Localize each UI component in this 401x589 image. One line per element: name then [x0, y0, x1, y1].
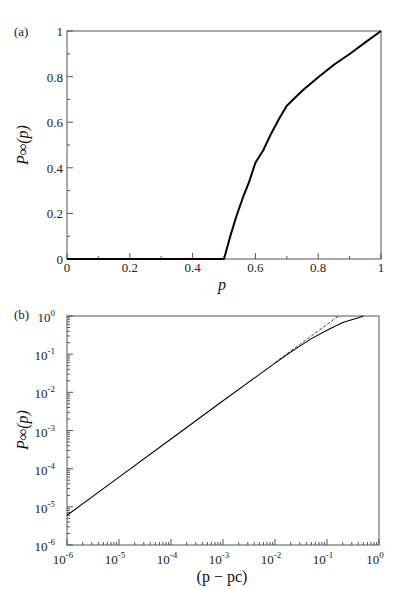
- chart-figure: (a) 00.20.40.60.8100.20.40.60.81 p P∞(p)…: [0, 0, 401, 589]
- series-line-a: [67, 31, 381, 259]
- x-tick-label-a: 0.8: [310, 260, 326, 275]
- x-tick-label-b: 10-6: [53, 550, 74, 567]
- x-tick-label-b: 100: [366, 550, 384, 567]
- y-tick-label-b: 10-2: [35, 384, 56, 401]
- y-axis-label-a: P∞(p): [14, 125, 32, 166]
- x-tick-label-b: 10-2: [261, 550, 282, 567]
- y-tick-label-a: 0.2: [47, 206, 63, 221]
- y-tick-label-b: 10-4: [35, 461, 56, 478]
- y-tick-label-a: 0.6: [47, 115, 64, 130]
- x-tick-label-b: 10-3: [209, 550, 230, 567]
- x-tick-label-a: 0.2: [122, 260, 138, 275]
- x-tick-label-b: 10-5: [105, 550, 126, 567]
- ticks-a: 00.20.40.60.8100.20.40.60.81: [47, 24, 385, 275]
- ticks-b: 10-610-510-410-310-210-110010-610-510-41…: [35, 308, 385, 567]
- y-tick-label-b: 100: [38, 308, 56, 325]
- series-a: [67, 31, 381, 259]
- x-tick-label-b: 10-4: [157, 550, 178, 567]
- x-tick-label-b: 10-1: [313, 550, 334, 567]
- x-axis-label-b: (p − pc): [197, 568, 248, 586]
- panel-a: (a) 00.20.40.60.8100.20.40.60.81 p P∞(p): [14, 24, 384, 294]
- panel-label-a: (a): [14, 24, 28, 39]
- y-axis-label-b-text: P∞(p): [14, 410, 32, 451]
- y-tick-label-a: 1: [57, 24, 64, 39]
- y-tick-label-b: 10-3: [35, 423, 56, 440]
- y-axis-label-b: P∞(p): [14, 410, 32, 451]
- x-tick-label-a: 0.4: [184, 260, 201, 275]
- series-b: [67, 316, 363, 515]
- plot-frame-b: [67, 316, 379, 545]
- x-tick-label-a: 0.6: [247, 260, 264, 275]
- y-axis-label-a-text: P∞(p): [14, 125, 32, 166]
- y-tick-label-b: 10-1: [35, 346, 56, 363]
- panel-label-b: (b): [14, 307, 29, 322]
- series-line-b: [67, 316, 363, 515]
- x-axis-label-a: p: [217, 276, 226, 294]
- y-tick-label-a: 0: [57, 252, 64, 267]
- y-tick-label-b: 10-5: [35, 499, 56, 516]
- panel-b: (b) 10-610-510-410-310-210-110010-610-51…: [14, 307, 384, 586]
- x-tick-label-a: 1: [378, 260, 385, 275]
- y-tick-label-a: 0.4: [47, 161, 64, 176]
- series-dashed-fit-b: [275, 316, 339, 363]
- x-tick-label-a: 0: [64, 260, 71, 275]
- y-tick-label-a: 0.8: [47, 70, 63, 85]
